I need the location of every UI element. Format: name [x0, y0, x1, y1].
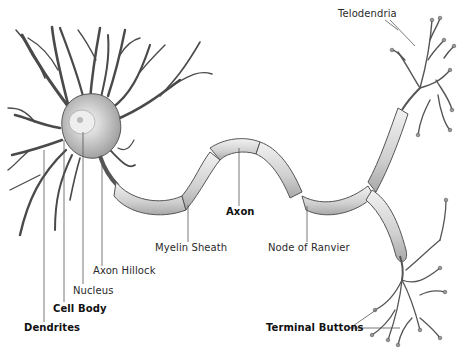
label-terminal-buttons: Terminal Buttons: [266, 322, 364, 334]
label-dendrites: Dendrites: [24, 322, 80, 334]
neuron-diagram: Telodendria Axon Myelin Sheath Node of R…: [0, 0, 464, 356]
cell-body: [62, 94, 121, 158]
leader-lines: [44, 20, 415, 328]
label-cell-body: Cell Body: [53, 303, 107, 315]
myelin-segments: [114, 108, 408, 262]
label-node-of-ranvier: Node of Ranvier: [268, 242, 350, 254]
label-telodendria: Telodendria: [338, 8, 397, 20]
label-axon: Axon: [226, 206, 255, 218]
label-axon-hillock: Axon Hillock: [93, 265, 156, 277]
label-nucleus: Nucleus: [73, 285, 114, 297]
axon-hillock: [100, 156, 118, 186]
label-myelin-sheath: Myelin Sheath: [155, 242, 227, 254]
